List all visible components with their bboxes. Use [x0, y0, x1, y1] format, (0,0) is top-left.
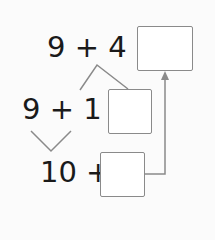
merge-lines-10: [31, 131, 71, 151]
answer-box-2[interactable]: [108, 89, 152, 134]
answer-box-3[interactable]: [100, 152, 145, 197]
arrow-head-icon: [161, 71, 169, 80]
split-lines-4: [80, 65, 128, 90]
answer-box-1[interactable]: [137, 26, 193, 71]
